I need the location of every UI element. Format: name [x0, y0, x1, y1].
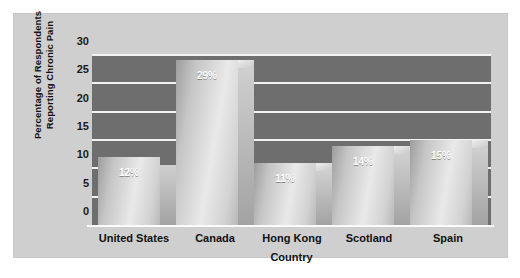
y-tick-label-20: 20	[63, 93, 89, 104]
bar-value-label: 12%	[98, 167, 160, 178]
x-axis-line	[87, 225, 494, 227]
bar-value-label: 29%	[176, 70, 238, 81]
y-tick-label-5: 5	[63, 178, 89, 189]
x-tick-label-spain: Spain	[409, 232, 487, 244]
y-tick-label-10: 10	[63, 149, 89, 160]
bar-canada[interactable]: 29%	[176, 60, 238, 226]
y-tick-label-25: 25	[63, 64, 89, 75]
bar-top-face	[160, 157, 176, 165]
bar-scotland[interactable]: 14%	[332, 146, 394, 226]
bar-value-label: 11%	[254, 173, 316, 184]
gridline-25	[92, 82, 491, 84]
bar-side-face	[316, 171, 332, 226]
bar-side-face	[160, 165, 176, 226]
x-tick-label-canada: Canada	[176, 232, 254, 244]
bar-top-face	[316, 163, 332, 171]
bar-side-face	[472, 148, 488, 226]
y-axis-title-line2: Reporting Chronic Pain	[44, 21, 55, 129]
bar-front-face	[176, 60, 238, 226]
x-axis-title: Country	[92, 251, 491, 263]
y-tick-label-0: 0	[63, 206, 89, 217]
x-tick-label-scotland: Scotland	[329, 232, 409, 244]
gridline-30	[92, 54, 491, 56]
y-axis-title: Percentage of Respondents Reporting Chro…	[32, 0, 56, 170]
bar-spain[interactable]: 15%	[410, 140, 472, 226]
y-tick-label-30: 30	[63, 36, 89, 47]
bar-side-face	[238, 68, 254, 226]
bar-side-face	[394, 154, 410, 226]
gridline-20	[92, 111, 491, 113]
bar-value-label: 15%	[410, 150, 472, 161]
y-axis-title-line1: Percentage of Respondents	[32, 11, 43, 139]
x-tick-label-hong-kong: Hong Kong	[250, 232, 334, 244]
chart-figure: 12% 29% 11% 14%	[0, 0, 520, 278]
plot-area: 12% 29% 11% 14%	[92, 54, 491, 226]
chart-panel: 12% 29% 11% 14%	[13, 13, 508, 258]
bar-top-face	[472, 140, 488, 148]
y-tick-label-15: 15	[63, 121, 89, 132]
bar-top-face	[394, 146, 410, 154]
bar-hong-kong[interactable]: 11%	[254, 163, 316, 226]
bar-top-face	[238, 60, 254, 68]
bar-value-label: 14%	[332, 156, 394, 167]
y-axis-ticks: 30 25 20 15 10 5 0	[61, 13, 89, 278]
x-tick-label-united-states: United States	[92, 232, 176, 244]
bar-united-states[interactable]: 12%	[98, 157, 160, 226]
